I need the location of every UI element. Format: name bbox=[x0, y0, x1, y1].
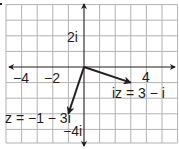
vector-z-label: z = −1 − 3i bbox=[5, 111, 71, 125]
tick-label-x-neg2: −2 bbox=[44, 71, 60, 85]
tick-label-y-2i: 2i bbox=[67, 30, 78, 44]
corner-bullet bbox=[0, 3, 2, 5]
vector-iz-label: iz = 3 − i bbox=[112, 86, 165, 100]
vector-iz-arrow bbox=[84, 67, 131, 83]
vector-z-arrow bbox=[68, 67, 84, 114]
complex-plane-diagram: −4 −2 4 2i −4i iz = 3 − i z = −1 − 3i bbox=[0, 0, 179, 149]
tick-label-y-neg4i: −4i bbox=[63, 124, 82, 138]
tick-label-x-4: 4 bbox=[142, 70, 150, 84]
tick-label-x-neg4: −4 bbox=[13, 71, 29, 85]
